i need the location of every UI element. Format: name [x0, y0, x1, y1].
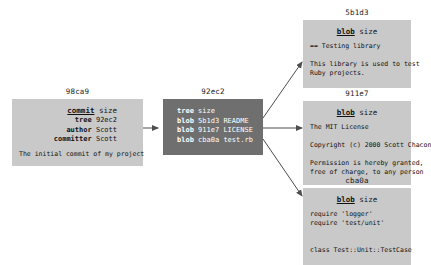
blob-testrb-label: cba0a: [303, 176, 411, 186]
blob-license-box: blob size The MIT License Copyright (c) …: [303, 101, 411, 185]
commit-field-author: author Scott: [12, 126, 143, 136]
blob-license-header-value: size: [359, 108, 377, 117]
commit-header-keyword: commit: [67, 106, 94, 115]
tree-entry-license-key: blob: [177, 126, 194, 134]
blob-license-line-5: Permission is hereby granted,: [303, 159, 411, 168]
blob-license-label: 911e7: [303, 89, 411, 99]
commit-field-committer: committer Scott: [12, 135, 143, 145]
blob-readme-line-4: Ruby projects.: [303, 69, 411, 78]
tree-entry-readme-hash: 5b1d3: [198, 117, 219, 125]
blob-readme-line-2: [303, 51, 411, 60]
blob-testrb-line-5: class Test::Unit::TestCase: [303, 246, 411, 255]
blob-readme-header: blob size: [303, 26, 411, 37]
tree-header: tree size: [163, 107, 263, 117]
blob-testrb-box: blob size require 'logger' require 'test…: [303, 188, 411, 265]
tree-entry-license: blob 911e7 LICENSE: [163, 126, 263, 136]
blob-license-line-4: [303, 150, 411, 159]
tree-entry-testrb-hash: cba0a: [198, 136, 219, 144]
blob-readme-box: blob size == Testing library This librar…: [303, 20, 411, 88]
blob-testrb-line-1: require 'logger': [303, 210, 411, 219]
tree-entry-testrb-key: blob: [177, 136, 194, 144]
commit-header: commit size: [12, 105, 143, 116]
blob-testrb-header-value: size: [359, 195, 377, 204]
commit-field-tree: tree 92ec2: [12, 116, 143, 126]
blob-testrb-line-2: require 'test/unit': [303, 219, 411, 228]
blob-readme-header-keyword: blob: [337, 27, 355, 36]
blob-readme-label: 5b1d3: [303, 8, 411, 18]
commit-field-tree-value: 92ec2: [96, 116, 117, 124]
arrow-tree-to-blob-testrb: [263, 139, 302, 196]
blob-license-header: blob size: [303, 107, 411, 118]
blob-testrb-line-3: [303, 228, 411, 237]
tree-node-label: 92ec2: [163, 87, 263, 97]
tree-entry-readme-key: blob: [177, 117, 194, 125]
commit-message: The initial commit of my project: [12, 150, 143, 159]
commit-field-tree-key: tree: [75, 116, 92, 124]
tree-entry-license-name: LICENSE: [223, 126, 253, 134]
tree-entry-license-hash: 911e7: [198, 126, 219, 134]
tree-entry-testrb: blob cba0a test.rb: [163, 136, 263, 146]
tree-box: tree size blob 5b1d3 README blob 911e7 L…: [163, 99, 263, 155]
tree-entry-testrb-name: test.rb: [223, 136, 253, 144]
blob-license-line-3: Copyright (c) 2000 Scott Chacon: [303, 141, 411, 150]
blob-readme-header-value: size: [359, 27, 377, 36]
commit-field-author-key: author: [66, 126, 91, 134]
arrow-tree-to-blob-readme: [263, 62, 302, 118]
blob-readme-line-1: == Testing library: [303, 42, 411, 51]
blob-testrb-header: blob size: [303, 194, 411, 205]
tree-entry-readme-name: README: [223, 117, 248, 125]
tree-header-keyword: tree: [177, 107, 194, 115]
commit-box: commit size tree 92ec2 author Scott comm…: [12, 99, 143, 166]
blob-testrb-line-4: [303, 237, 411, 246]
tree-entry-readme: blob 5b1d3 README: [163, 117, 263, 127]
commit-field-author-value: Scott: [96, 126, 117, 134]
blob-license-line-1: The MIT License: [303, 123, 411, 132]
commit-field-committer-value: Scott: [96, 135, 117, 143]
commit-header-value: size: [99, 106, 117, 115]
blob-readme-line-3: This library is used to test: [303, 60, 411, 69]
blob-license-header-keyword: blob: [337, 108, 355, 117]
tree-header-value: size: [198, 107, 215, 115]
blob-testrb-header-keyword: blob: [337, 195, 355, 204]
blob-license-line-2: [303, 132, 411, 141]
commit-node-label: 98ca9: [12, 87, 143, 97]
commit-field-committer-key: committer: [54, 135, 92, 143]
